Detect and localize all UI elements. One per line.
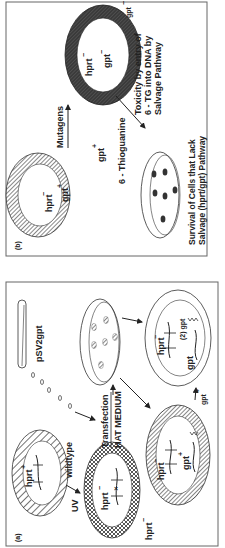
mutagens-arrow: Mutagens [55,105,68,148]
colony [163,192,168,199]
survival-line-2: Salvage (hprt/gpt) Pathway [197,136,207,245]
colony [173,186,178,193]
toxicity-line-1: Toxicity by entry of [133,32,143,115]
uv-label: UV [70,499,80,512]
cell-hprt-minus-gpt-plus: hprt − gpt + [6,153,70,237]
colony [163,168,168,175]
cell-hprt-label: hprt [44,195,54,213]
panel-b-label: (b) [14,241,22,250]
colony [161,215,166,222]
plasmid-label: pSV2gpt [34,325,44,362]
toxicity-line-3: Salvage Pathway [153,42,163,115]
svg-text:+: + [56,184,63,188]
svg-text:+: + [177,452,184,456]
svg-text:gpt: gpt [102,54,112,68]
cell-wildtype: hprt + [12,430,68,516]
plate-to-double-cell-arrow [122,318,142,322]
panel-b: (b) hprt − gpt + gpt + Mutagens hprt − g… [6,1,207,256]
svg-text:−: − [140,518,147,522]
svg-text:−: − [40,192,47,196]
gpt-plus-label: gpt [96,148,106,162]
svg-text:−: − [152,459,159,463]
panel-a: (a) hprt + wildtype UV × hprt − hprt [6,282,218,546]
thioguanine-label: 6 - Thioguanine [117,118,127,185]
svg-text:gpt: gpt [185,356,195,370]
gpt-arrow-label: gpt [200,393,208,405]
petri-plate-survivors [141,152,180,238]
colony [153,189,158,196]
hprt-minus-outer-label: hprt [144,523,154,541]
svg-text:+: + [20,465,27,469]
svg-text:−: − [152,335,159,339]
wildtype-label: wildtype [64,442,74,479]
cell-hprt-minus-gpt-minus: hprt − gpt − [65,5,141,105]
mutagens-label: Mutagens [55,106,65,148]
plate-to-transfected-cell-arrow [120,378,150,408]
plasmid-dots [32,373,72,409]
svg-text:hprt: hprt [156,338,166,356]
cell-uv-mutant: × hprt − [84,442,140,538]
svg-text:−: − [120,1,127,5]
svg-text:×: × [114,485,118,492]
panel-a-label: (a) [14,533,22,542]
hat-medium-label: HAT MEDIUM [113,391,123,448]
svg-text:hprt: hprt [84,59,94,77]
svg-text:(2) gpt: (2) gpt [179,318,187,340]
petri-plate-transfected [80,299,120,385]
colony [152,170,157,177]
cell-double-gpt: hprt − (2) gpt gpt [145,290,211,386]
svg-text:+: + [194,389,201,393]
svg-text:−: − [80,53,87,57]
figure-canvas: (b) hprt − gpt + gpt + Mutagens hprt − g… [0,0,225,548]
cell-gpt-label: gpt [60,188,70,202]
uv-arrow [66,485,80,493]
gpt-minus-corner-label: gpt [125,6,133,18]
plasmid-arrow [75,412,95,420]
cell-transfected: hprt − gpt + [146,405,210,505]
toxicity-line-2: 6 - TG into DNA by [143,36,153,115]
svg-text:hprt: hprt [156,463,166,481]
svg-text:+: + [91,144,98,148]
svg-text:gpt: gpt [181,456,191,470]
svg-text:−: − [96,486,103,490]
svg-text:hprt: hprt [100,493,110,511]
plasmid-tube: pSV2gpt [18,300,44,368]
svg-text:−: − [98,50,105,54]
svg-text:hprt: hprt [24,470,34,488]
transfection-label: Transfection [100,394,110,448]
survival-line-1: Survival of Cells that Lack [187,139,197,245]
